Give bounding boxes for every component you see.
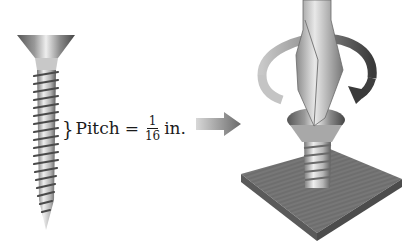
fraction-numerator: 1 [147,115,159,129]
right-arrow-icon [196,112,241,136]
screw-head [17,35,75,58]
screwdriver-blade [296,0,343,126]
screwdriver-assembly [241,0,402,241]
pitch-label: } Pitch = 1 16 in. [62,113,186,143]
screw-pitch-figure: } Pitch = 1 16 in. [0,0,415,252]
pitch-term: Pitch [75,118,119,138]
pitch-unit: in. [164,118,186,138]
screw-neck [35,58,58,70]
pitch-fraction: 1 16 [145,115,160,142]
equals-sign: = [125,118,139,138]
fraction-denominator: 16 [145,129,160,142]
driven-screw-head-cone [290,125,342,142]
rotation-arrow-front [262,75,282,100]
screw-shank [37,70,56,230]
brace-symbol: } [62,116,73,139]
